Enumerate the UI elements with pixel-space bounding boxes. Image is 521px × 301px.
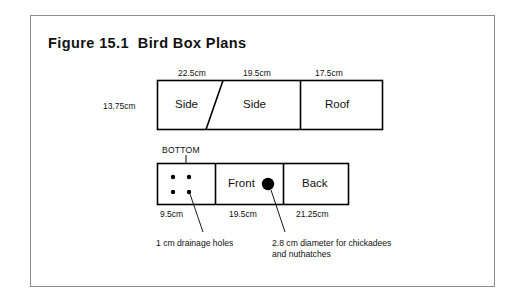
entrance-hole-annotation-line-1: 2.8 cm diameter for chickadees bbox=[272, 238, 391, 249]
panel-label-roof: Roof bbox=[325, 98, 349, 110]
top-row-height-label: 13.75cm bbox=[103, 101, 136, 111]
panel-label-side-2: Side bbox=[243, 98, 266, 110]
drainage-hole bbox=[187, 190, 191, 194]
bottom-panel-tag: BOTTOM bbox=[162, 145, 200, 155]
entrance-hole bbox=[262, 178, 274, 190]
bottom-panel-width-label-back: 21.25cm bbox=[296, 209, 329, 219]
bird-box-plans-figure: Figure 15.1 Bird Box Plans 13.75cm 22.5c… bbox=[0, 0, 521, 301]
drainage-holes-annotation: 1 cm drainage holes bbox=[156, 238, 233, 249]
drainage-hole bbox=[187, 175, 191, 179]
drainage-hole bbox=[171, 175, 175, 179]
drainage-hole bbox=[171, 190, 175, 194]
top-panel-width-label-side-2: 19.5cm bbox=[243, 68, 271, 78]
diagram-drawing bbox=[0, 0, 521, 301]
panel-label-front: Front bbox=[228, 177, 255, 189]
bottom-panel-width-label-front: 19.5cm bbox=[229, 209, 257, 219]
top-panel-width-label-side-1: 22.5cm bbox=[178, 68, 206, 78]
panel-label-back: Back bbox=[302, 177, 328, 189]
panel-label-side-1: Side bbox=[175, 98, 198, 110]
top-panel-width-label-roof: 17.5cm bbox=[315, 68, 343, 78]
entrance-hole-annotation-line-2: and nuthatches bbox=[272, 249, 331, 260]
bottom-panel-width-label-bottom: 9.5cm bbox=[160, 209, 183, 219]
